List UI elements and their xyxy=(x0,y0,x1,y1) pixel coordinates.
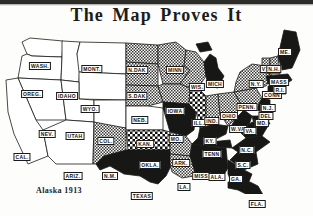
state-shape-id xyxy=(61,41,80,82)
state-label-kan: KAN. xyxy=(136,140,154,148)
state-label-ga: GA. xyxy=(229,175,243,183)
state-label-mont: MONT. xyxy=(81,65,102,73)
state-label-ind: IND. xyxy=(204,117,219,125)
state-shape-nd xyxy=(126,43,158,64)
state-label-nev: NEV. xyxy=(39,130,56,138)
state-label-neb: NEB. xyxy=(131,116,148,124)
state-label-sdak: S.DAK xyxy=(126,92,147,100)
state-label-va: VA. xyxy=(243,127,256,135)
state-label-iowa: IOWA xyxy=(166,107,185,115)
state-label-sc: S.C. xyxy=(235,161,250,169)
state-label-col: COL. xyxy=(97,137,114,145)
state-label-ky: KY. xyxy=(204,137,217,145)
state-label-me: ME. xyxy=(278,48,292,56)
state-label-ala: ALA. xyxy=(208,173,225,181)
state-label-ny: N.Y. xyxy=(249,80,264,88)
state-label-idaho: IDAHO xyxy=(56,92,78,100)
state-label-fla: FLA. xyxy=(249,200,266,208)
state-label-cal: CAL. xyxy=(13,153,30,161)
state-label-okla: OKLA. xyxy=(139,161,160,169)
state-label-la: LA. xyxy=(177,183,190,191)
state-shape-az xyxy=(43,120,94,164)
map-caption: Alaska 1913 xyxy=(36,186,82,195)
state-shape-ia xyxy=(158,84,190,104)
state-label-mo: MO. xyxy=(169,135,184,143)
state-label-ariz: ARIZ. xyxy=(64,172,83,180)
state-label-ndak: N.DAK xyxy=(126,66,148,74)
state-shape-wy xyxy=(79,72,126,100)
state-label-miss: MISS xyxy=(192,172,210,180)
state-label-mass: MASS xyxy=(269,78,289,86)
state-label-ohio: OHIO xyxy=(220,112,238,120)
state-label-utah: UTAH xyxy=(66,132,85,140)
state-label-texas: TEXAS xyxy=(131,192,153,200)
page-title: The Map Proves It xyxy=(0,5,313,26)
state-label-penn: PENN. xyxy=(236,103,257,111)
state-label-wyo: WYO. xyxy=(81,105,100,113)
state-label-del: DEL xyxy=(258,112,273,120)
state-label-nc: N.C. xyxy=(239,146,254,154)
state-label-ri: R.I. xyxy=(273,86,286,94)
state-label-tenn: TENN xyxy=(202,150,221,158)
state-label-wis: WIS. xyxy=(189,83,205,91)
state-label-nh: N.H. xyxy=(266,65,281,73)
state-label-ark: ARK. xyxy=(172,159,190,167)
state-label-oreg: OREG. xyxy=(21,90,43,98)
state-label-minn: MINN xyxy=(166,66,184,74)
state-label-wash: WASH. xyxy=(29,62,51,70)
state-label-md: MD. xyxy=(255,119,269,127)
map-illustration: The Map Proves It xyxy=(0,0,313,216)
state-shape-fl xyxy=(228,182,270,194)
state-label-mich: MICH xyxy=(206,80,224,88)
state-label-nm: N.M. xyxy=(102,172,118,180)
state-label-nj: N.J. xyxy=(261,104,276,112)
